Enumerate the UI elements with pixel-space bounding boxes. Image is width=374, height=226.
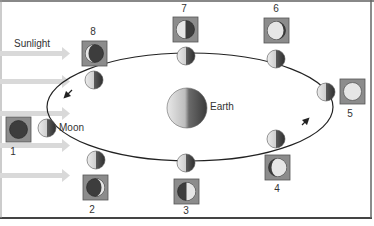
- phase-number-5: 5: [343, 108, 357, 119]
- sunlight-label: Sunlight: [14, 38, 50, 49]
- orbit-moon-5-icon: [317, 83, 335, 101]
- phase-box-4: [265, 155, 290, 180]
- orbit-moon-4-icon: [267, 130, 285, 148]
- orbit-moon-3-icon: [177, 154, 195, 172]
- phase-number-1: 1: [6, 146, 20, 157]
- new-moon-icon: [10, 121, 28, 139]
- orbit-moon-2-icon: [87, 151, 105, 169]
- earth-icon: [167, 88, 207, 128]
- orbit-direction-arrow-icon: [66, 90, 72, 96]
- phase-number-6: 6: [269, 3, 283, 14]
- sunlight-arrow-icon: [0, 75, 70, 88]
- phase-box-1: [6, 117, 31, 142]
- full-moon-icon: [344, 83, 362, 101]
- orbit-direction-arrow-icon: [302, 120, 307, 125]
- phase-number-2: 2: [85, 204, 99, 215]
- phase-box-6: [264, 18, 289, 43]
- phase-box-7: [173, 17, 198, 42]
- phase-number-3: 3: [179, 205, 193, 216]
- moon-label: Moon: [59, 122, 84, 133]
- orbit-moon-6-icon: [267, 50, 285, 68]
- orbit-moon-7-icon: [177, 47, 195, 65]
- diagram-canvas: [0, 0, 374, 226]
- phase-box-2: [83, 175, 108, 200]
- phase-number-7: 7: [177, 3, 191, 14]
- phase-number-4: 4: [270, 183, 284, 194]
- moon-phases-diagram: Sunlight Earth Moon 1 2 3 4 5 6 7 8: [0, 0, 374, 226]
- earth-label: Earth: [210, 101, 234, 112]
- orbit-moon-1-icon: [38, 119, 56, 137]
- phase-box-8: [82, 41, 107, 66]
- phase-box-5: [340, 79, 365, 104]
- sunlight-arrow-icon: [0, 169, 70, 182]
- sunlight-arrows: [0, 47, 70, 182]
- phase-number-8: 8: [86, 26, 100, 37]
- orbit-moon-8-icon: [85, 71, 103, 89]
- phase-box-3: [174, 179, 199, 204]
